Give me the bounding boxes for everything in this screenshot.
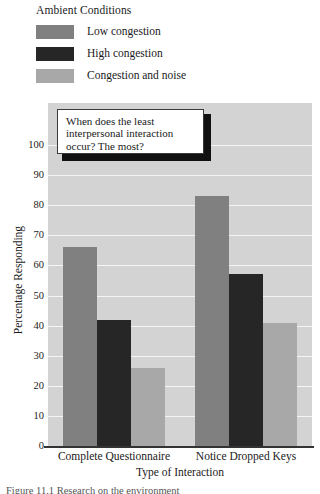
callout-text: When does the least interpersonal intera…: [66, 115, 198, 152]
y-axis-tick-label: 10: [0, 411, 44, 422]
y-axis-tick-label: 100: [0, 140, 44, 151]
x-axis-tick-label: Notice Dropped Keys: [180, 450, 312, 463]
x-axis-tick-label: Complete Questionnaire: [48, 450, 180, 463]
figure-caption: Figure 11.1 Research on the environment: [6, 485, 314, 494]
legend-entry: Low congestion: [36, 21, 296, 42]
legend-title: Ambient Conditions: [36, 4, 296, 17]
y-axis-label: Percentage Responding: [12, 200, 24, 360]
bar-chart-figure: Ambient Conditions Low congestionHigh co…: [0, 0, 320, 494]
y-axis-tick-label: 0: [0, 441, 44, 452]
chart-legend: Ambient Conditions Low congestionHigh co…: [36, 4, 296, 87]
legend-entry: High congestion: [36, 43, 296, 64]
legend-label: High congestion: [87, 47, 163, 60]
legend-entry: Congestion and noise: [36, 65, 296, 86]
legend-label: Low congestion: [87, 25, 161, 38]
legend-entry-list: Low congestionHigh congestionCongestion …: [36, 21, 296, 86]
bar: [229, 274, 263, 446]
gridline: [48, 175, 312, 176]
legend-label: Congestion and noise: [87, 69, 186, 82]
y-axis-tick-label: 20: [0, 381, 44, 392]
gridline: [48, 235, 312, 236]
bar: [195, 196, 229, 446]
x-axis-line: [44, 446, 314, 448]
bar: [63, 247, 97, 446]
bar: [97, 320, 131, 446]
bar: [263, 323, 297, 446]
x-axis-label: Type of Interaction: [48, 466, 312, 479]
y-axis-tick-label: 90: [0, 170, 44, 181]
gridline: [48, 205, 312, 206]
bar: [131, 368, 165, 446]
callout-box: When does the least interpersonal intera…: [57, 109, 204, 154]
